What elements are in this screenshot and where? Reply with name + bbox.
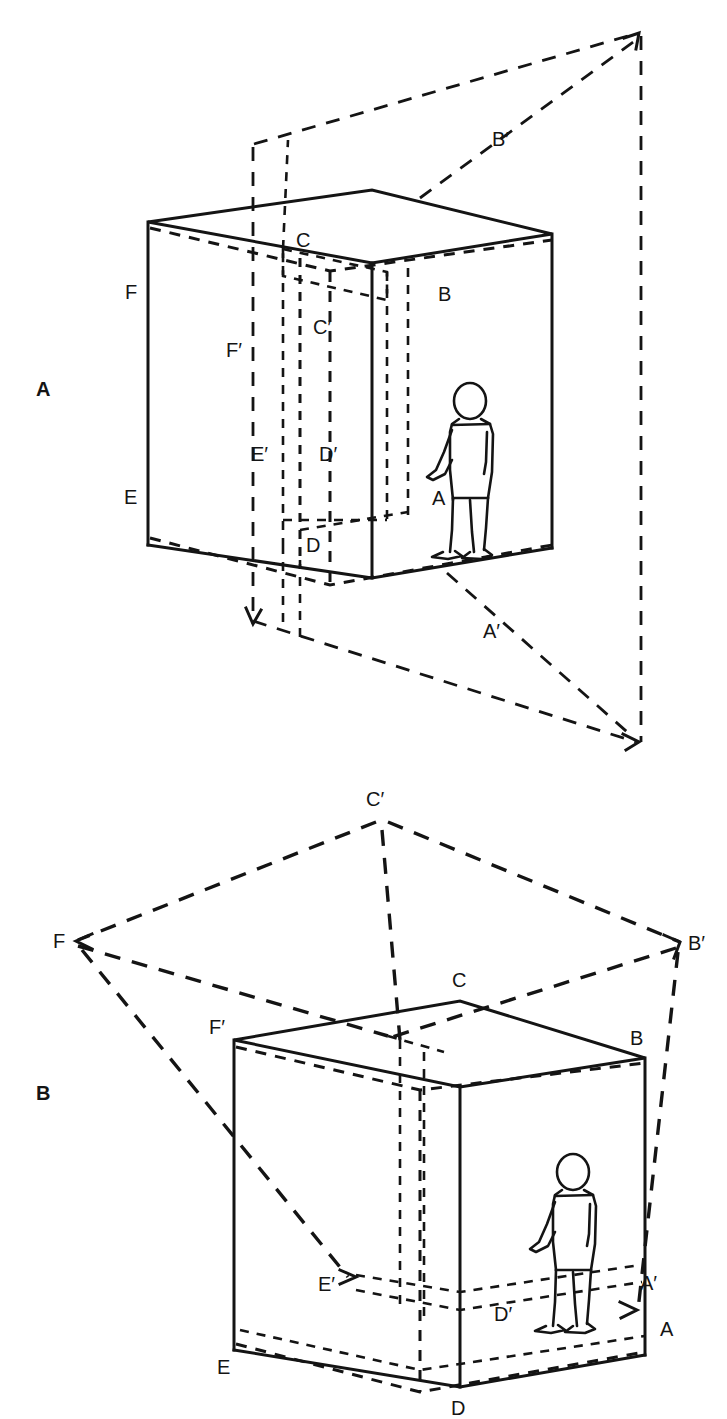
figure-left-leg: [553, 1270, 556, 1326]
inner-cube-bottom-edge2: [300, 512, 408, 530]
inner-frame-upper-left: [283, 140, 288, 249]
figure-head: [557, 1154, 589, 1190]
label-A: A: [432, 487, 446, 509]
label-F-prime: F′: [209, 1016, 225, 1038]
label-E: E: [124, 486, 137, 508]
figure-right-leg: [484, 498, 488, 550]
figure-left-leg: [450, 498, 453, 552]
label-E-prime: E′: [251, 443, 268, 465]
outer-frame-top-edge: [254, 33, 638, 144]
label-C: C: [296, 229, 310, 251]
panel-a-outer-frame: [246, 33, 641, 750]
figure-shoulders: [555, 1195, 593, 1196]
hidden-bottom-rear-edge: [150, 538, 552, 585]
label-A: A: [660, 1318, 674, 1340]
panel-b-inner-cube: [240, 1036, 645, 1370]
figure-head: [454, 383, 486, 419]
label-D: D: [306, 534, 320, 556]
panel-label-a: A: [36, 378, 50, 401]
figure-right-leg-front: [470, 500, 474, 552]
label-C: C: [452, 969, 466, 991]
label-F-prime: F′: [226, 339, 242, 361]
label-F: F: [125, 281, 137, 303]
ray-F-to-Eprime: [82, 950, 348, 1277]
label-E: E: [217, 1356, 230, 1378]
cube-bottom-edges: [148, 545, 552, 578]
figure-shoulders: [452, 424, 490, 425]
figure-right-foot: [565, 1323, 595, 1333]
figure-caption: [112, 1398, 632, 1419]
figure-right-leg: [587, 1270, 591, 1324]
label-C-prime: C′: [366, 788, 384, 810]
inner-cube-top-edge: [388, 1036, 444, 1052]
observer-figure-panel-a: [427, 383, 493, 559]
panel-b-hidden-edges: [236, 1047, 645, 1392]
ray-Cprime-to-Bprime: [388, 822, 680, 942]
figure-right-foot: [462, 549, 492, 559]
figure-left-foot: [535, 1325, 565, 1333]
label-B-prime: B′: [688, 932, 705, 954]
cube-top-face: [148, 190, 552, 263]
label-F: F: [53, 930, 65, 952]
panel-a-projection-rays: [420, 40, 636, 738]
panel-a-hidden-edges: [150, 228, 552, 585]
ray-Cprime-to-F: [78, 822, 376, 940]
outer-frame-bottom-arrowhead: [623, 734, 639, 750]
outer-frame-bottom-edge: [253, 621, 636, 742]
label-B-prime: B′: [492, 128, 509, 150]
label-A-prime: A′: [483, 620, 500, 642]
panel-a-diagram: F C B B′ F′ C′ E′ D′ E D A A′: [0, 0, 727, 770]
figure-right-arm: [587, 1204, 590, 1246]
label-E-prime: E′: [318, 1273, 335, 1295]
panel-label-b: B: [36, 1082, 50, 1105]
panel-b-diagram: C′ F B′ C F′ B E′ D′ A′ E D A: [0, 770, 727, 1419]
label-B: B: [438, 283, 451, 305]
ray-Cprime-down: [382, 830, 400, 1040]
observer-figure-panel-b: [530, 1154, 596, 1333]
label-C-prime: C′: [313, 316, 331, 338]
label-D-prime: D′: [494, 1303, 512, 1325]
figure-left-arm: [427, 430, 452, 480]
figure-left-arm: [530, 1202, 555, 1252]
ray-Aprime-arrowhead: [620, 1302, 637, 1318]
cube-bottom-edges: [234, 1350, 645, 1387]
figure-root: F C B B′ F′ C′ E′ D′ E D A A′: [0, 0, 727, 1419]
figure-left-foot: [432, 551, 462, 559]
label-B: B: [630, 1027, 643, 1049]
label-A-prime: A′: [640, 1272, 657, 1294]
cube-top-face: [234, 1001, 645, 1087]
figure-right-arm: [484, 432, 487, 474]
panel-a-inner-cube: [283, 140, 408, 640]
figure-right-leg-front: [573, 1272, 577, 1326]
label-D-prime: D′: [319, 443, 337, 465]
